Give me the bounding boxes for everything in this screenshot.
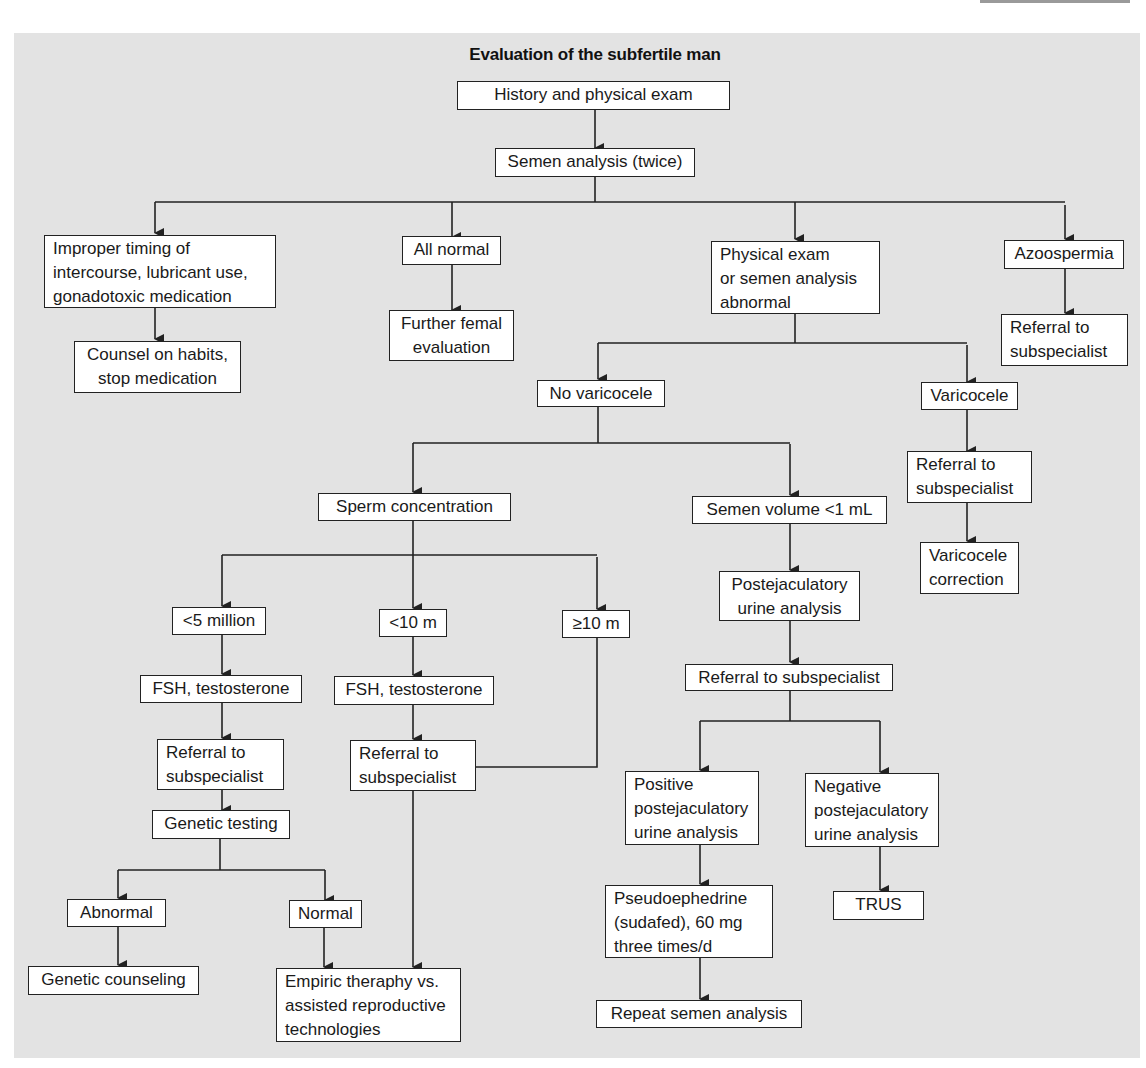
node-text: (sudafed), 60 mg <box>614 911 764 935</box>
node-lt-5-million: <5 million <box>172 607 266 635</box>
node-text: No varicocele <box>546 382 656 406</box>
node-text: ≥10 m <box>571 612 621 636</box>
node-postejaculatory-urine-analysis: Postejaculatory urine analysis <box>719 571 860 621</box>
node-genetic-counseling: Genetic counseling <box>28 966 199 995</box>
node-text: FSH, testosterone <box>343 678 485 702</box>
node-text: abnormal <box>720 291 871 315</box>
node-text: Physical exam <box>720 243 871 267</box>
node-text: Counsel on habits, <box>83 343 232 367</box>
node-text: subspecialist <box>916 477 1023 501</box>
node-text: postejaculatory <box>814 799 930 823</box>
node-text: Negative <box>814 775 930 799</box>
node-text: <10 m <box>388 611 438 635</box>
node-varicocele: Varicocele <box>921 382 1018 410</box>
node-text: Genetic counseling <box>37 968 190 992</box>
node-referral-a: Referral to subspecialist <box>157 739 284 790</box>
node-text: Referral to <box>916 453 1023 477</box>
node-text: Referral to <box>1010 316 1119 340</box>
node-text: Positive <box>634 773 750 797</box>
node-text: Genetic testing <box>161 812 281 836</box>
node-text: Repeat semen analysis <box>605 1002 793 1026</box>
node-text: All normal <box>411 238 492 262</box>
node-text: Postejaculatory <box>728 573 851 597</box>
node-genetic-testing: Genetic testing <box>152 810 290 839</box>
node-no-varicocele: No varicocele <box>537 380 665 407</box>
node-text: subspecialist <box>359 766 467 790</box>
node-text: subspecialist <box>166 765 275 789</box>
node-referral-c: Referral to subspecialist <box>685 664 893 691</box>
node-azoospermia-referral: Referral to subspecialist <box>1001 314 1128 366</box>
node-referral-b: Referral to subspecialist <box>350 740 476 791</box>
node-varicocele-correction: Varicocele correction <box>920 542 1019 594</box>
node-normal: Normal <box>289 900 362 928</box>
node-text: three times/d <box>614 935 764 959</box>
node-abnormal: Abnormal <box>67 899 166 927</box>
node-text: evaluation <box>398 336 505 360</box>
node-history-physical-exam: History and physical exam <box>457 81 730 110</box>
node-trus: TRUS <box>833 891 924 920</box>
node-text: urine analysis <box>814 823 930 847</box>
node-text: Abnormal <box>76 901 157 925</box>
node-text: subspecialist <box>1010 340 1119 364</box>
node-negative-pea: Negative postejaculatory urine analysis <box>805 773 939 847</box>
node-azoospermia: Azoospermia <box>1004 240 1124 269</box>
node-text: or semen analysis <box>720 267 871 291</box>
node-text: Sperm concentration <box>327 495 502 519</box>
node-text: urine analysis <box>634 821 750 845</box>
node-text: Normal <box>298 902 353 926</box>
node-text: urine analysis <box>728 597 851 621</box>
connector-line <box>476 637 597 767</box>
node-text: intercourse, lubricant use, <box>53 261 267 285</box>
node-ge-10-m: ≥10 m <box>562 610 630 638</box>
node-further-female-evaluation: Further femal evaluation <box>389 310 514 361</box>
node-lt-10-m: <10 m <box>379 609 447 637</box>
node-semen-analysis: Semen analysis (twice) <box>495 148 695 177</box>
node-text: TRUS <box>842 893 915 917</box>
node-text: correction <box>929 568 1010 592</box>
node-text: Referral to subspecialist <box>694 666 884 690</box>
node-varicocele-referral: Referral to subspecialist <box>907 451 1032 503</box>
node-text: FSH, testosterone <box>149 677 293 701</box>
node-text: postejaculatory <box>634 797 750 821</box>
node-text: History and physical exam <box>466 83 721 107</box>
node-repeat-semen-analysis: Repeat semen analysis <box>596 1000 802 1028</box>
node-text: Referral to <box>359 742 467 766</box>
node-text: Varicocele <box>929 544 1010 568</box>
node-text: Empiric theraphy vs. <box>285 970 452 994</box>
node-text: stop medication <box>83 367 232 391</box>
node-all-normal: All normal <box>402 236 501 265</box>
node-text: technologies <box>285 1018 452 1042</box>
node-physical-exam-abnormal: Physical exam or semen analysis abnormal <box>711 241 880 314</box>
node-fsh-testosterone-1: FSH, testosterone <box>140 675 302 703</box>
node-text: Further femal <box>398 312 505 336</box>
node-text: Pseudoephedrine <box>614 887 764 911</box>
node-text: Referral to <box>166 741 275 765</box>
node-text: Semen analysis (twice) <box>504 150 686 174</box>
node-text: Semen volume <1 mL <box>701 498 878 522</box>
node-fsh-testosterone-2: FSH, testosterone <box>334 676 494 705</box>
node-text: assisted reproductive <box>285 994 452 1018</box>
node-sperm-concentration: Sperm concentration <box>318 493 511 521</box>
node-text: Varicocele <box>930 384 1009 408</box>
node-text: Improper timing of <box>53 237 267 261</box>
node-semen-volume: Semen volume <1 mL <box>692 496 887 524</box>
node-text: Azoospermia <box>1013 242 1115 266</box>
node-improper-timing: Improper timing of intercourse, lubrican… <box>44 235 276 308</box>
node-pseudoephedrine: Pseudoephedrine (sudafed), 60 mg three t… <box>605 885 773 958</box>
node-text: <5 million <box>181 609 257 633</box>
node-positive-pea: Positive postejaculatory urine analysis <box>625 771 759 845</box>
node-empiric-therapy: Empiric theraphy vs. assisted reproducti… <box>276 968 461 1042</box>
node-counsel-habits: Counsel on habits, stop medication <box>74 341 241 393</box>
node-text: gonadotoxic medication <box>53 285 267 309</box>
